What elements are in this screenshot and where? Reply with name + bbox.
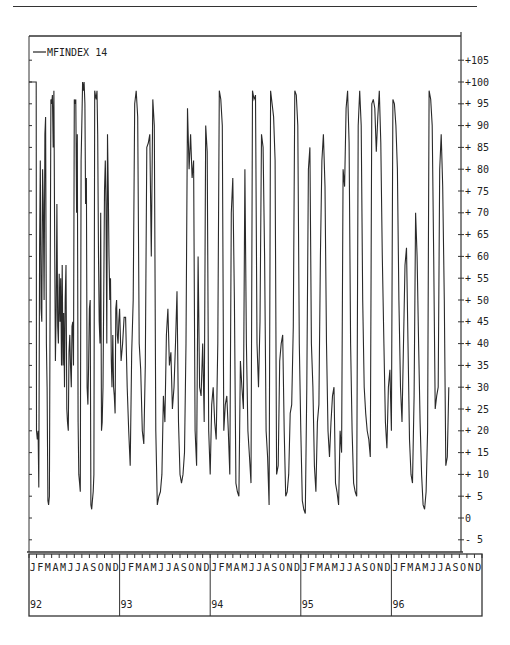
y-tick-label: + 40 <box>465 338 489 349</box>
month-label: M <box>45 562 51 573</box>
month-label: J <box>166 562 172 573</box>
month-label: M <box>151 562 157 573</box>
month-label: F <box>309 562 315 573</box>
month-label: N <box>377 562 383 573</box>
month-label: A <box>324 562 330 573</box>
month-label: F <box>128 562 134 573</box>
month-label: A <box>234 562 240 573</box>
month-label: A <box>264 562 270 573</box>
y-tick-label: + 65 <box>465 229 489 240</box>
y-tick-label: +100 <box>465 77 489 88</box>
month-label: F <box>219 562 225 573</box>
y-tick-label: + 20 <box>465 425 489 436</box>
month-label: D <box>113 562 119 573</box>
month-label: J <box>158 562 164 573</box>
month-label: D <box>294 562 300 573</box>
month-label: S <box>271 562 277 573</box>
month-label: O <box>370 562 376 573</box>
month-label: N <box>286 562 292 573</box>
month-label: M <box>226 562 232 573</box>
date-axis-band: JFMAMJJASONDJFMAMJJASONDJFMAMJJASONDJFMA… <box>29 554 482 616</box>
month-label: F <box>37 562 43 573</box>
y-tick-label: + 90 <box>465 120 489 131</box>
month-label: A <box>445 562 451 573</box>
month-label: J <box>211 562 217 573</box>
month-label: O <box>188 562 194 573</box>
y-tick-label: + 70 <box>465 207 489 218</box>
month-label: J <box>75 562 81 573</box>
month-label: A <box>354 562 360 573</box>
legend-label: MFINDEX 14 <box>47 47 107 58</box>
month-label: D <box>385 562 391 573</box>
year-label: 95 <box>302 599 314 610</box>
year-labels: 9293949596 <box>30 599 404 610</box>
month-label: A <box>415 562 421 573</box>
month-label: J <box>30 562 36 573</box>
y-tick-label: + 35 <box>465 360 489 371</box>
y-tick-label: + 45 <box>465 316 489 327</box>
y-tick-label: + 25 <box>465 404 489 415</box>
chart: +105+100+ 95+ 90+ 85+ 80+ 75+ 70+ 65+ 60… <box>0 0 510 645</box>
year-label: 94 <box>211 599 223 610</box>
month-label: J <box>68 562 74 573</box>
year-label: 92 <box>30 599 42 610</box>
y-tick-label: + 75 <box>465 186 489 197</box>
month-label: N <box>196 562 202 573</box>
mfindex-14-line <box>29 82 449 514</box>
month-label: N <box>468 562 474 573</box>
month-label: J <box>339 562 345 573</box>
month-label: A <box>143 562 149 573</box>
month-label: O <box>279 562 285 573</box>
y-tick-label: +105 <box>465 55 489 66</box>
y-axis: +105+100+ 95+ 90+ 85+ 80+ 75+ 70+ 65+ 60… <box>458 55 489 546</box>
y-tick-label: - 5 <box>465 534 483 545</box>
plot-frame <box>27 32 463 552</box>
month-label: M <box>317 562 323 573</box>
month-label: S <box>90 562 96 573</box>
month-label: M <box>422 562 428 573</box>
month-label: M <box>332 562 338 573</box>
y-tick-label: + 30 <box>465 382 489 393</box>
month-label: M <box>407 562 413 573</box>
y-tick-label: + 50 <box>465 295 489 306</box>
month-label: J <box>437 562 443 573</box>
month-label: S <box>453 562 459 573</box>
month-label: M <box>241 562 247 573</box>
month-label: J <box>256 562 262 573</box>
month-label: S <box>181 562 187 573</box>
y-tick-label: + 80 <box>465 164 489 175</box>
month-label: J <box>120 562 126 573</box>
y-tick-label: + 15 <box>465 447 489 458</box>
month-label: J <box>347 562 353 573</box>
month-label: A <box>83 562 89 573</box>
month-label: O <box>460 562 466 573</box>
month-label: O <box>98 562 104 573</box>
month-label: J <box>392 562 398 573</box>
month-label: A <box>173 562 179 573</box>
month-labels: JFMAMJJASONDJFMAMJJASONDJFMAMJJASONDJFMA… <box>30 562 481 573</box>
month-label: J <box>430 562 436 573</box>
year-label: 96 <box>392 599 404 610</box>
y-tick-label: + 55 <box>465 273 489 284</box>
month-label: J <box>249 562 255 573</box>
month-label: M <box>60 562 66 573</box>
y-tick-label: + 10 <box>465 469 489 480</box>
month-label: J <box>302 562 308 573</box>
y-tick-label: + 95 <box>465 98 489 109</box>
y-tick-label: + 60 <box>465 251 489 262</box>
month-label: A <box>52 562 58 573</box>
month-label: N <box>105 562 111 573</box>
y-tick-label: + 5 <box>465 491 483 502</box>
month-label: M <box>135 562 141 573</box>
month-label: S <box>362 562 368 573</box>
year-label: 93 <box>121 599 133 610</box>
y-tick-label: 0 <box>465 513 471 524</box>
legend: MFINDEX 14 <box>33 47 107 58</box>
y-tick-label: + 85 <box>465 142 489 153</box>
month-label: F <box>400 562 406 573</box>
month-label: D <box>203 562 209 573</box>
month-label: D <box>475 562 481 573</box>
